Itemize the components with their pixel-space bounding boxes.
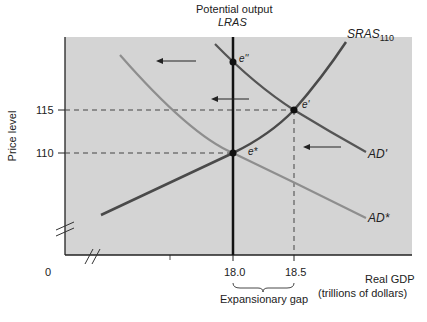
origin-label: 0 [45, 266, 51, 278]
x-axis-label-line2: (trillions of dollars) [318, 287, 407, 299]
point-label-e-star: e* [248, 146, 257, 157]
plot-area [65, 37, 412, 255]
point-e-prime [291, 107, 298, 114]
lras-label: LRAS [218, 16, 247, 28]
y-tick-label-110: 110 [36, 147, 54, 159]
y-tick-label-115: 115 [36, 104, 54, 116]
sras-label: SRAS110 [347, 27, 394, 43]
x-tick-label-18-5: 18.5 [285, 266, 306, 278]
chart-canvas [0, 0, 427, 322]
point-e-star [230, 150, 237, 157]
point-label-e-prime: e' [302, 99, 309, 110]
ad-prime-label: AD' [368, 147, 387, 161]
x-axis-label-line1: Real GDP [365, 273, 415, 285]
ad-star-label: AD* [368, 211, 389, 225]
point-e-double-prime [230, 59, 237, 66]
point-label-e-double-prime: e'' [239, 53, 248, 64]
y-axis-label: Price level [6, 111, 18, 162]
gap-label: Expansionary gap [220, 293, 308, 305]
gap-brace [233, 283, 294, 292]
chart-title: Potential output [196, 3, 272, 15]
x-tick-label-18-0: 18.0 [224, 266, 245, 278]
